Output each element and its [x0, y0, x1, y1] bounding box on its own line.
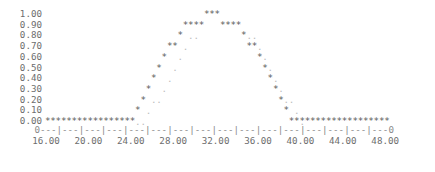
data-point-secondary: .: [294, 106, 300, 117]
data-point-secondary: .: [167, 74, 173, 85]
data-point-primary: *: [178, 30, 184, 41]
data-point-secondary: .: [268, 63, 274, 74]
x-axis-tick-label: 32.00: [200, 136, 232, 147]
data-point-primary: *: [156, 63, 162, 74]
data-point-secondary: .: [183, 42, 189, 53]
ascii-scatter-plot: 1.000.900.800.700.600.500.400.300.200.10…: [0, 0, 435, 172]
data-point-primary: *: [162, 52, 168, 63]
data-point-secondary: .: [172, 63, 178, 74]
data-point-secondary: .: [278, 84, 284, 95]
x-axis-line: 0---|---|---|---|---|---|---|---|---|---…: [34, 125, 394, 136]
data-point-primary: *: [140, 95, 146, 106]
x-axis-tick-label: 28.00: [157, 136, 189, 147]
x-axis-tick-label: 20.00: [73, 136, 105, 147]
data-point-secondary: .: [156, 95, 162, 106]
x-axis-tick-label: 36.00: [242, 136, 274, 147]
y-axis-tick-label: 0.30: [14, 84, 42, 95]
data-point-primary: *: [146, 84, 152, 95]
data-point-secondary: .: [162, 84, 168, 95]
x-axis-tick-label: 24.00: [115, 136, 147, 147]
data-point-secondary: .: [178, 52, 184, 63]
data-point-primary: *: [215, 9, 221, 20]
data-point-primary: *: [135, 105, 141, 116]
data-point-primary: *: [172, 41, 178, 52]
data-point-secondary: .: [252, 31, 258, 42]
x-axis-tick-label: 40.00: [285, 136, 317, 147]
data-point-secondary: .: [262, 52, 268, 63]
data-point-primary: *: [199, 20, 205, 31]
data-point-secondary: .: [193, 31, 199, 42]
y-axis-tick-label: 1.00: [14, 9, 42, 20]
y-axis-tick-label: 0.60: [14, 52, 42, 63]
x-axis-tick-label: 16.00: [30, 136, 62, 147]
data-point-secondary: .: [146, 106, 152, 117]
data-point-primary: *: [151, 73, 157, 84]
x-axis-tick-label: 48.00: [369, 136, 401, 147]
x-axis-tick-label: 44.00: [327, 136, 359, 147]
